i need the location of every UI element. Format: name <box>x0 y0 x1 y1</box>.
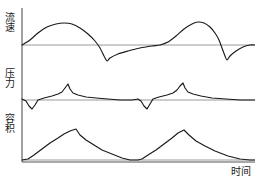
pressure-waveform-trace <box>22 83 255 109</box>
x-axis-label-time: 时间 <box>231 163 251 178</box>
volume-waveform-trace <box>22 129 255 160</box>
y-axis-label-volume: 容积 <box>3 113 14 133</box>
flow-waveform-trace <box>22 22 255 61</box>
y-axis-label-flow: 流速 <box>3 12 14 32</box>
y-axis-label-pressure: 压力 <box>3 68 14 88</box>
waveform-plot-area <box>0 0 255 182</box>
ventilator-waveform-chart: 流速 压力 容积 时间 <box>0 0 255 182</box>
